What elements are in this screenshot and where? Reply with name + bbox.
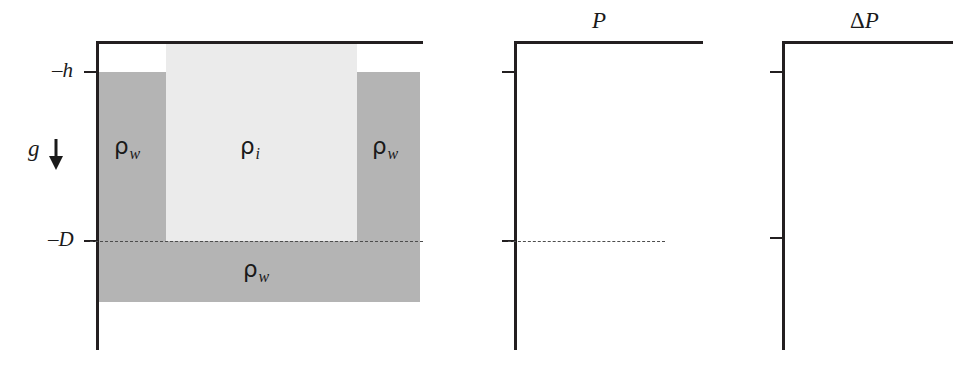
rho-glyph: ρ xyxy=(372,133,387,159)
middle-dashed-line-minus-D xyxy=(508,241,665,242)
delta-glyph: Δ xyxy=(850,8,865,33)
rho-glyph: ρ xyxy=(114,133,129,159)
density-label-water-left: ρw xyxy=(114,135,139,158)
right-top-surface-line xyxy=(782,41,953,44)
region-ice-block xyxy=(166,42,357,241)
rho-subscript: w xyxy=(388,145,399,162)
right-tick-minus-D xyxy=(770,237,783,239)
tick-minus-h xyxy=(84,71,97,73)
density-label-water-lower: ρw xyxy=(243,258,268,281)
right-vertical-axis xyxy=(782,42,785,350)
middle-axis-label-P: P xyxy=(592,9,606,32)
left-vertical-axis xyxy=(96,42,99,350)
middle-top-surface-line xyxy=(514,41,703,44)
middle-tick-minus-h xyxy=(502,71,515,73)
rho-subscript: w xyxy=(259,268,270,285)
rho-subscript: w xyxy=(130,145,141,162)
rho-glyph: ρ xyxy=(243,256,258,282)
density-label-water-right: ρw xyxy=(372,135,397,158)
rho-subscript: i xyxy=(256,145,260,162)
gravity-arrow-icon xyxy=(45,137,67,175)
p-glyph: P xyxy=(865,8,879,33)
left-dashed-line-minus-D xyxy=(90,241,423,242)
right-tick-minus-h xyxy=(770,71,783,73)
rho-glyph: ρ xyxy=(240,133,255,159)
gravity-symbol-g: g xyxy=(28,137,40,160)
label-minus-D: –D xyxy=(48,229,74,250)
right-axis-label-delta-P: ΔP xyxy=(850,9,879,32)
density-label-ice: ρi xyxy=(240,135,259,158)
middle-vertical-axis xyxy=(514,42,517,350)
left-top-surface-line xyxy=(96,41,423,44)
label-minus-h: –h xyxy=(52,60,73,81)
figure-root: –h –D g ρw ρi ρw ρw P xyxy=(0,0,974,380)
